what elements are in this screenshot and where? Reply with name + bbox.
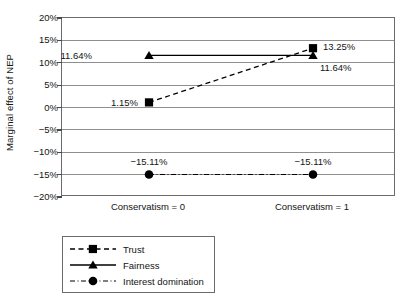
y-tick-label: 15% [18,34,58,45]
x-tick-label-conservatism-1: Conservatism = 1 [275,201,349,212]
fairness-key-glyph [69,258,117,272]
point-label-fairness-left: 11.64% [60,50,92,61]
y-tick-label: −15% [18,168,58,179]
legend-item-interest-domination: Interest domination [63,273,214,289]
y-tick-label: 5% [18,79,58,90]
trust-marker [309,44,317,52]
legend-key-interest-domination-icon [69,274,117,288]
trust-key-glyph [69,242,117,256]
y-axis-tick-labels: 20% 15% 10% 5% 0% −5% −10% −15% −20% [16,0,58,301]
legend-label-interest-domination: Interest domination [123,276,204,287]
legend-label-trust: Trust [123,244,144,255]
legend-item-trust: Trust [63,241,214,257]
legend-key-fairness-icon [69,258,117,272]
legend-label-fairness: Fairness [123,260,159,271]
y-tick-label: −5% [18,123,58,134]
legend-item-fairness: Fairness [63,257,214,273]
interest-domination-marker [145,170,154,179]
trust-line [149,48,313,102]
point-label-trust-right: 13.25% [323,41,355,52]
y-tick-label: −20% [18,191,58,202]
x-tick-label-conservatism-0: Conservatism = 0 [111,201,185,212]
point-label-fairness-right: 11.64% [320,61,352,72]
y-tick-label: 0% [18,101,58,112]
y-tick-label: −10% [18,146,58,157]
point-label-interest-right: −15.11% [294,156,331,167]
trust-marker [145,98,153,106]
plot-area: 11.64% 1.15% 13.25% 11.64% −15.11% −15.1… [61,17,395,196]
point-label-interest-left: −15.11% [130,156,167,167]
interest-domination-marker [309,170,318,179]
y-tick-label: 20% [18,12,58,23]
interest-domination-key-glyph [69,274,117,288]
point-label-trust-left: 1.15% [111,97,138,108]
y-axis-title: Marginal effect of NEP [5,54,16,151]
legend: Trust Fairness Interest domination [62,236,215,293]
y-tick-label: 10% [18,56,58,67]
legend-key-trust-icon [69,242,117,256]
chart-figure: Marginal effect of NEP 20% 15% 10% 5% 0%… [0,0,411,301]
